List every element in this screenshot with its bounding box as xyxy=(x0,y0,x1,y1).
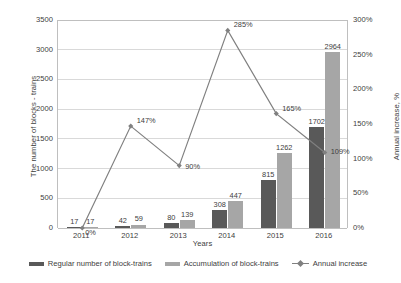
y-axis-left-tick-label: 1000 xyxy=(19,165,53,173)
line-label-2016: 109% xyxy=(331,148,350,155)
legend-item-3[interactable]: Annual increase xyxy=(292,259,367,268)
line-label-2012: 147% xyxy=(137,117,156,124)
plot-area: 1717425980139308447815126217022964 0%147… xyxy=(57,20,348,228)
line-label-2015: 165% xyxy=(282,105,301,112)
chart-legend: Regular number of block-trainsAccumulati… xyxy=(0,259,396,268)
y-axis-right-tick-label: 0% xyxy=(353,224,387,232)
line-marker-2011 xyxy=(80,225,85,230)
y-axis-left-tick-label: 2000 xyxy=(19,105,53,113)
legend-label: Accumulation of block-trains xyxy=(184,259,279,268)
legend-label: Annual increase xyxy=(313,259,367,268)
y-axis-right-tick-label: 200% xyxy=(353,85,387,93)
y-axis-right-tick-label: 150% xyxy=(353,120,387,128)
line-series xyxy=(58,20,349,228)
line-label-2013: 90% xyxy=(185,163,200,170)
annual-increase-line xyxy=(82,30,325,228)
y-axis-right-tick-label: 300% xyxy=(353,16,387,24)
y-axis-left-tick-label: 3000 xyxy=(19,46,53,54)
y-axis-right-tick-label: 100% xyxy=(353,155,387,163)
y-axis-left-tick-label: 1500 xyxy=(19,135,53,143)
y-axis-right-tick-label: 250% xyxy=(353,51,387,59)
legend-label: Regular number of block-trains xyxy=(48,259,152,268)
line-marker-2014 xyxy=(225,28,230,33)
legend-line-marker-icon xyxy=(292,260,309,267)
y-axis-left-tick-label: 2500 xyxy=(19,75,53,83)
y-axis-left-tick-label: 500 xyxy=(19,194,53,202)
legend-swatch-icon xyxy=(165,262,180,266)
x-axis-title: Years xyxy=(57,239,348,248)
legend-swatch-icon xyxy=(29,262,44,266)
legend-item-2[interactable]: Accumulation of block-trains xyxy=(165,259,279,268)
line-label-2014: 285% xyxy=(234,21,253,28)
x-axis-tick-label: 2016 xyxy=(294,232,354,240)
y-axis-left-title: The number of blocks - trains xyxy=(29,42,38,212)
legend-item-1[interactable]: Regular number of block-trains xyxy=(29,259,152,268)
y-axis-left-tick-label: 3500 xyxy=(19,16,53,24)
y-axis-right-title: Annual increase, % xyxy=(392,42,401,212)
y-axis-right-tick-label: 50% xyxy=(353,189,387,197)
y-axis-left-tick-label: 0 xyxy=(19,224,53,232)
